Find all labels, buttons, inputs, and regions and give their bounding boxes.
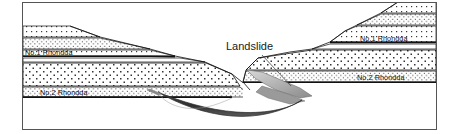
landslide-label: Landslide <box>226 40 273 52</box>
cross-section-drawing: No.1 Rhondda No.2 Rhondda No.1 Rhondda N… <box>0 0 459 134</box>
label-right-no1-rhondda: No.1 Rhondda <box>360 34 408 43</box>
left-parting-bed <box>23 58 205 62</box>
geological-cross-section-figure: No.1 Rhondda No.2 Rhondda No.1 Rhondda N… <box>0 0 459 134</box>
right-parting-bed <box>312 44 436 49</box>
left-lower-beds-unit <box>23 98 232 129</box>
label-left-no1-rhondda: No.1 Rhondda <box>25 48 73 57</box>
label-left-no2-rhondda: No.2 Rhondda <box>40 88 88 97</box>
left-main-sandstone-unit <box>23 63 240 86</box>
label-right-no2-rhondda: No.2 Rhondda <box>357 73 405 82</box>
